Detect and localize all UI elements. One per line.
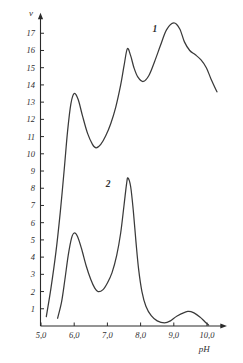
curve-2 xyxy=(58,178,209,325)
y-tick-label: 15 xyxy=(27,63,36,73)
y-tick-label: 17 xyxy=(27,28,36,38)
y-tick-label: 14 xyxy=(27,80,36,90)
y-tick-label: 10 xyxy=(27,149,36,159)
y-tick-label: 5 xyxy=(31,235,35,245)
x-tick-label: 10,0 xyxy=(200,330,216,340)
x-tick-label: 9,0 xyxy=(168,330,179,340)
curve-label-2: 2 xyxy=(105,179,111,189)
y-tick-label: 9 xyxy=(31,166,36,176)
curve-label-1: 1 xyxy=(153,24,158,34)
y-tick-label: 3 xyxy=(30,269,35,279)
y-tick-label: 4 xyxy=(31,252,36,262)
y-tick-label: 6 xyxy=(31,218,36,228)
curve-1 xyxy=(46,23,217,317)
x-axis-tick-labels: 5,06,07,08,09,010,0 xyxy=(36,330,216,340)
y-tick-label: 1 xyxy=(31,304,35,314)
curve-labels-group: 12 xyxy=(105,24,158,190)
x-tick-label: 7,0 xyxy=(102,330,113,340)
x-tick-label: 8,0 xyxy=(135,330,146,340)
x-tick-label: 6,0 xyxy=(69,330,80,340)
ph-rate-chart: 1234567891011121314151617 5,06,07,08,09,… xyxy=(0,0,243,363)
y-axis-tick-labels: 1234567891011121314151617 xyxy=(27,28,36,314)
y-tick-label: 7 xyxy=(31,200,36,210)
y-tick-label: 16 xyxy=(27,45,36,55)
y-tick-label: 12 xyxy=(27,114,36,124)
y-tick-label: 11 xyxy=(27,132,35,142)
x-tick-label: 5,0 xyxy=(36,330,47,340)
x-axis-arrowhead xyxy=(220,323,227,328)
y-axis-title: v xyxy=(29,8,33,18)
curves-group xyxy=(46,23,217,325)
y-tick-label: 8 xyxy=(31,183,36,193)
y-tick-label: 13 xyxy=(27,97,36,107)
x-axis-title: pH xyxy=(198,344,211,354)
y-tick-label: 2 xyxy=(31,287,36,297)
y-axis-arrowhead xyxy=(38,13,43,20)
